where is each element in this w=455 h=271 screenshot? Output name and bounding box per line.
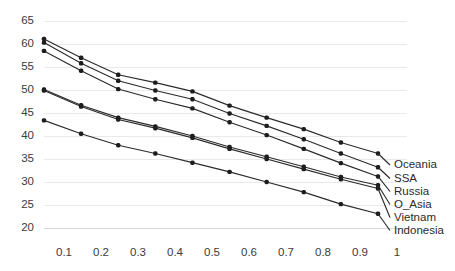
series-label-ssa: SSA	[394, 173, 417, 185]
series-o-asia	[42, 87, 390, 204]
series-oceania	[42, 37, 390, 165]
plot-area	[0, 0, 455, 271]
series-label-russia: Russia	[394, 186, 429, 198]
series-label-oceania: Oceania	[394, 159, 437, 171]
series-label-o-asia: O_Asia	[394, 199, 432, 211]
series-russia	[42, 49, 390, 192]
series-label-indonesia: Indonesia	[394, 225, 444, 237]
series-indonesia	[42, 118, 390, 230]
series-label-vietnam: Vietnam	[394, 212, 436, 224]
line-chart: 65 60 55 50 45 40 35 30 25 20 0.1 0.2 0.…	[0, 0, 455, 271]
